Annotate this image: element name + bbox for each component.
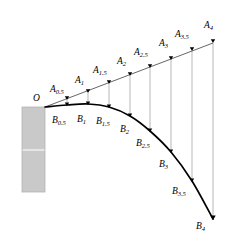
projectile-trajectory-figure: OA0.5A1A1.5A2A2.5A3A3.5A4B0.5B1B1.5B2B2.… (0, 0, 229, 242)
label-B2.5: B2.5 (136, 139, 150, 149)
label-B0.5: B0.5 (52, 116, 66, 126)
point-marker-A4 (211, 39, 215, 43)
label-A4: A4 (204, 21, 213, 31)
label-B1: B1 (77, 115, 86, 125)
label-A3.5: A3.5 (175, 30, 189, 40)
label-A3: A3 (159, 39, 168, 49)
label-B2: B2 (120, 125, 129, 135)
label-A1: A1 (75, 76, 84, 86)
label-A2.5: A2.5 (134, 48, 148, 58)
label-A0.5: A0.5 (50, 85, 64, 95)
point-marker-B3.5 (190, 178, 194, 182)
label-B3.5: B3.5 (172, 187, 186, 197)
point-marker-B4 (210, 216, 215, 221)
label-B3: B3 (159, 160, 168, 170)
label-origin-O: O (33, 94, 40, 104)
label-A2: A2 (117, 57, 126, 67)
figure-canvas (0, 0, 229, 242)
straight-trajectory-line (45, 43, 213, 107)
label-A1.5: A1.5 (93, 66, 107, 76)
label-B4: B4 (196, 222, 205, 232)
label-B1.5: B1.5 (96, 117, 110, 127)
curved-trajectory-path (45, 104, 213, 219)
